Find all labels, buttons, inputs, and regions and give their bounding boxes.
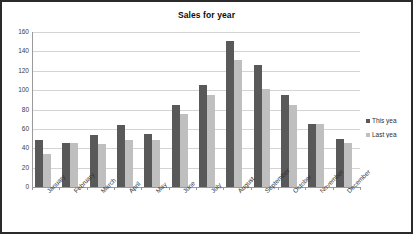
bar[interactable] [43,154,51,187]
y-axis-tick-label: 120 [5,68,29,75]
bar[interactable] [70,143,78,187]
bar[interactable] [316,124,324,187]
legend-label: Last yea [372,132,397,139]
bar-group [251,32,278,187]
bar[interactable] [199,85,207,187]
y-axis-tick-label: 140 [5,48,29,55]
y-axis-tick-label: 160 [5,29,29,36]
bar-group [278,32,305,187]
legend-item[interactable]: Last yea [366,132,411,139]
bar-group [114,32,141,187]
bar[interactable] [234,60,242,187]
y-axis-tick-labels: 020406080100120140160 [2,32,29,187]
y-axis-tick-label: 60 [5,126,29,133]
chart-title: Sales for year [2,10,411,20]
bar[interactable] [144,134,152,187]
bar[interactable] [344,143,352,187]
bar-group [196,32,223,187]
y-axis-tick-label: 0 [5,184,29,191]
bar[interactable] [125,140,133,187]
bar-group [87,32,114,187]
y-axis-tick-label: 40 [5,145,29,152]
y-axis-tick-label: 100 [5,87,29,94]
chart-frame: Sales for year 020406080100120140160 Jan… [0,0,413,234]
bar[interactable] [180,114,188,187]
bar[interactable] [172,105,180,187]
bar-group [169,32,196,187]
bar-group [305,32,332,187]
bar[interactable] [254,65,262,187]
bars-layer [32,32,360,187]
bar[interactable] [226,41,234,187]
bar[interactable] [289,105,297,187]
bar[interactable] [117,125,125,187]
chart-legend: This yeaLast yea [366,118,411,145]
y-axis-tick-label: 20 [5,164,29,171]
y-axis-tick-label: 80 [5,106,29,113]
bar[interactable] [98,144,106,187]
bar-group [32,32,59,187]
legend-label: This yea [372,118,397,125]
legend-swatch-icon [366,133,370,137]
bar[interactable] [207,95,215,187]
bar[interactable] [152,140,160,187]
x-axis-tick-mark [360,187,361,190]
bar-group [141,32,168,187]
legend-swatch-icon [366,119,370,123]
x-axis-labels: JanuaryFebruaryMarchAprilMayJuneJulyAugu… [32,190,360,234]
bar-group [223,32,250,187]
bar[interactable] [35,140,43,187]
legend-item[interactable]: This yea [366,118,411,125]
bar[interactable] [262,89,270,187]
bar-group [333,32,360,187]
bar-group [59,32,86,187]
chart-canvas: Sales for year 020406080100120140160 Jan… [2,2,411,232]
